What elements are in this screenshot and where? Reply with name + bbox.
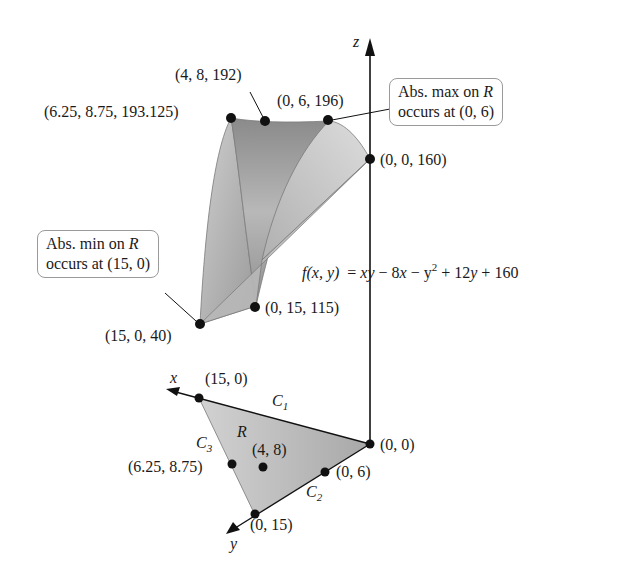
curve-C1-label: C1 [272, 392, 288, 415]
curve-C3-letter: C [196, 434, 207, 451]
label-0-0-160: (0, 0, 160) [380, 151, 447, 169]
curve-C2-label: C2 [306, 483, 322, 506]
curve-C2-letter: C [306, 483, 317, 500]
abs-max-var: R [483, 83, 493, 100]
curve-C3-sub: 3 [207, 442, 213, 454]
z-axis-label: z [353, 33, 359, 51]
point-0-6-196 [323, 115, 333, 125]
region-R-label: R [237, 423, 247, 441]
function-label: f(x, y) =xy − 8x − y2 + 12y + 160 [302, 258, 518, 282]
point-6.25-8.75 [228, 460, 237, 469]
abs-max-line1: Abs. max on [398, 83, 483, 100]
point-4-8-192 [260, 116, 270, 126]
abs-min-line2: occurs at (15, 0) [46, 254, 150, 274]
label-0-6-196: (0, 6, 196) [277, 92, 344, 110]
point-15-0-40 [195, 319, 205, 329]
function-term: x [400, 264, 407, 281]
label-6.25-8.75-193.125: (6.25, 8.75, 193.125) [44, 103, 179, 121]
surface-extrema-figure: z x y (4, 8, 192) (6.25, 8.75, 193.125) … [0, 0, 642, 580]
abs-min-callout: Abs. min on R occurs at (15, 0) [37, 230, 159, 278]
label-6.25-8.75: (6.25, 8.75) [128, 458, 203, 476]
point-15-0 [195, 394, 204, 403]
curve-C1-sub: 1 [283, 400, 289, 412]
label-0-15: (0, 15) [250, 516, 293, 534]
abs-max-line2: occurs at (0, 6) [398, 102, 494, 122]
function-term: + 12 [437, 264, 470, 281]
function-lhs: f(x, y) [302, 264, 339, 281]
label-4-8-192: (4, 8, 192) [175, 66, 242, 84]
point-4-8 [259, 463, 268, 472]
point-6.25-8.75-193.125 [226, 113, 236, 123]
curve-C3-label: C3 [196, 434, 212, 457]
function-term: + 160 [477, 264, 518, 281]
label-0-15-115: (0, 15, 115) [265, 299, 339, 317]
label-4-8: (4, 8) [252, 441, 287, 459]
curve-C2-sub: 2 [317, 491, 323, 503]
function-term: − y [407, 264, 432, 281]
leader-max [332, 109, 390, 120]
curve-C1-letter: C [272, 392, 283, 409]
abs-max-callout: Abs. max on R occurs at (0, 6) [389, 78, 503, 126]
function-term: xy [360, 264, 374, 281]
z-axis [365, 38, 375, 445]
label-15-0-40: (15, 0, 40) [105, 327, 172, 345]
x-axis-label: x [170, 369, 177, 387]
point-0-15-115 [250, 302, 260, 312]
function-eq: = [347, 264, 356, 281]
label-0-0: (0, 0) [380, 436, 415, 454]
label-15-0: (15, 0) [205, 370, 248, 388]
abs-min-line1: Abs. min on [46, 235, 129, 252]
leader-min [165, 293, 196, 321]
point-0-6 [321, 468, 330, 477]
point-0-0 [366, 440, 375, 449]
abs-min-var: R [129, 235, 139, 252]
y-axis-label: y [230, 535, 237, 553]
label-0-6: (0, 6) [336, 463, 371, 481]
point-0-0-160 [365, 154, 375, 164]
function-term: − 8 [375, 264, 400, 281]
